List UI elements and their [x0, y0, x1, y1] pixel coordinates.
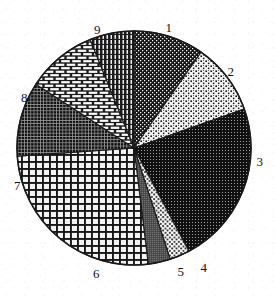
pie-slices-group: [17, 31, 251, 265]
pie-label-3: 3: [257, 154, 264, 169]
pie-label-9: 9: [94, 22, 101, 37]
pie-label-8: 8: [21, 90, 28, 105]
pie-chart-svg: 1 2 3 4 5 6 7 8 9: [0, 0, 275, 296]
pie-label-7: 7: [14, 178, 21, 193]
pie-label-4: 4: [201, 260, 208, 275]
pie-label-6: 6: [93, 266, 100, 281]
pie-label-2: 2: [228, 64, 235, 79]
pie-slice-6[interactable]: [17, 148, 148, 265]
pie-label-1: 1: [166, 20, 173, 35]
pie-label-5: 5: [178, 264, 185, 279]
pie-chart-figure: 1 2 3 4 5 6 7 8 9: [0, 0, 275, 296]
